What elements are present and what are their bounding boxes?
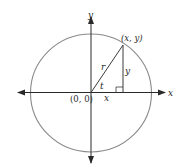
x-axis-label: x bbox=[168, 88, 173, 98]
horizontal-leg-label: x bbox=[104, 93, 109, 103]
right-angle-marker bbox=[116, 87, 123, 93]
radius-label: r bbox=[101, 62, 106, 72]
origin-label: (0, 0) bbox=[70, 94, 93, 104]
radius-line bbox=[91, 45, 123, 93]
vertical-leg-label: y bbox=[124, 66, 131, 76]
angle-label: t bbox=[100, 81, 104, 91]
unit-circle-diagram: y x (x, y) r y t (0, 0) x bbox=[0, 0, 178, 168]
point-label: (x, y) bbox=[121, 33, 143, 43]
y-axis-label: y bbox=[87, 10, 94, 20]
